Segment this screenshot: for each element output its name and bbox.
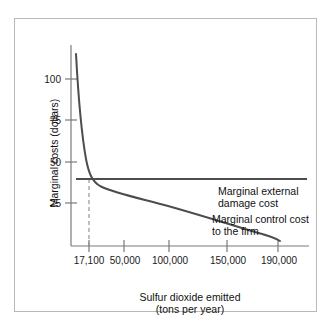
series-label-control-line1: Marginal control cost xyxy=(212,213,309,225)
series-label-external-line2: damage cost xyxy=(218,197,299,209)
x-axis-title: Sulfur dioxide emitted (tons per year) xyxy=(75,291,305,315)
x-axis-title-line2: (tons per year) xyxy=(75,303,305,315)
x-tick-label-190000: 190,000 xyxy=(251,255,307,266)
x-tick-label-150000: 150,000 xyxy=(200,255,256,266)
series-label-marginal-control-cost: Marginal control cost to the firm xyxy=(212,213,309,237)
series-label-external-line1: Marginal external xyxy=(218,185,299,197)
series-label-marginal-external-damage-cost: Marginal external damage cost xyxy=(218,185,299,209)
chart-figure: 100 75 50 25 17,100 50,000 100,000 150,0… xyxy=(0,0,330,325)
chart-frame: 100 75 50 25 17,100 50,000 100,000 150,0… xyxy=(14,18,317,312)
x-tick-label-100000: 100,000 xyxy=(142,255,198,266)
series-label-control-line2: to the firm xyxy=(212,225,309,237)
x-axis-title-line1: Sulfur dioxide emitted xyxy=(75,291,305,303)
y-axis-title: Marginal costs (dollars) xyxy=(48,83,60,223)
